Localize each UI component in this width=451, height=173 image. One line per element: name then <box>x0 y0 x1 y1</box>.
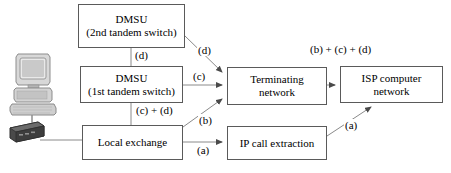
node-ip-call-extraction[interactable]: IP call extraction <box>227 126 327 160</box>
node-label-line2: (2nd tandem switch) <box>86 26 176 39</box>
node-local-exchange[interactable]: Local exchange <box>82 125 183 160</box>
edge-label-c-plus-d: (c) + (d) <box>135 104 174 116</box>
node-label-line1: DMSU <box>116 13 148 26</box>
computer-workstation-icon <box>4 52 62 144</box>
node-terminating-network[interactable]: Terminating network <box>227 67 327 105</box>
edge-label-d-vertical: (d) <box>134 49 149 61</box>
node-label-line1: Terminating <box>250 73 304 86</box>
node-label-line2: network <box>373 85 409 98</box>
node-label-line2: (1st tandem switch) <box>88 85 175 98</box>
edge-label-b-plus-c-plus-d: (b) + (c) + (d) <box>309 43 372 55</box>
network-flow-diagram: DMSU (2nd tandem switch) DMSU (1st tande… <box>0 0 451 173</box>
edge-label-a-bottom: (a) <box>196 144 210 156</box>
edge-label-a-diagonal: (a) <box>344 119 358 131</box>
node-dmsu-1st-tandem-switch[interactable]: DMSU (1st tandem switch) <box>80 66 183 103</box>
edge-label-c: (c) <box>192 70 206 82</box>
node-label-line1: DMSU <box>116 72 148 85</box>
node-label-line1: ISP computer <box>362 72 422 85</box>
modem-icon <box>10 122 44 142</box>
node-isp-computer-network[interactable]: ISP computer network <box>340 66 443 103</box>
edge-label-d-diagonal: (d) <box>197 44 212 56</box>
node-label-line1: IP call extraction <box>240 137 315 150</box>
edge-label-b: (b) <box>198 114 213 126</box>
node-label-line1: Local exchange <box>98 136 167 149</box>
node-dmsu-2nd-tandem-switch[interactable]: DMSU (2nd tandem switch) <box>78 4 185 48</box>
node-label-line2: network <box>259 86 295 99</box>
